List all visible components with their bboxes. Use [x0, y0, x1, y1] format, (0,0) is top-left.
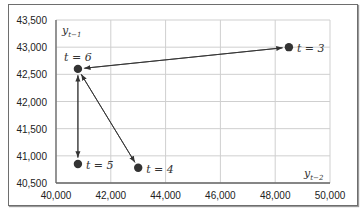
- y-tick-label: 43,000: [16, 42, 47, 53]
- y-tick-labels: 40,50041,00041,50042,00042,50043,00043,5…: [16, 15, 47, 189]
- x-axis-label-subscript: t−2: [310, 174, 324, 182]
- y-tick-label: 42,000: [16, 97, 47, 108]
- data-point: [74, 160, 82, 168]
- x-tick-labels: 40,00042,00044,00046,00048,00050,000: [41, 190, 346, 201]
- x-tick-label: 48,000: [260, 190, 291, 201]
- x-tick-label: 44,000: [150, 190, 181, 201]
- x-tick-label: 42,000: [96, 190, 127, 201]
- data-label: t = 4: [146, 163, 174, 176]
- data-point: [74, 65, 82, 73]
- data-label: t = 5: [86, 159, 114, 172]
- arrows: [78, 48, 283, 163]
- scatter-chart: 40,00042,00044,00046,00048,00050,000 40,…: [0, 0, 362, 213]
- y-tick-label: 43,500: [16, 15, 47, 26]
- y-tick-label: 40,500: [16, 178, 47, 189]
- y-axis-label-subscript: t−1: [68, 31, 81, 39]
- x-tick-label: 50,000: [315, 190, 346, 201]
- data-label: t = 3: [297, 42, 325, 55]
- x-axis-label: yt−2: [303, 167, 324, 182]
- arrow: [81, 74, 135, 162]
- data-point: [285, 43, 293, 51]
- data-point: [134, 164, 142, 172]
- y-tick-label: 41,500: [16, 124, 47, 135]
- data-label: t = 6: [64, 51, 92, 64]
- arrow: [84, 48, 282, 68]
- y-tick-label: 42,500: [16, 69, 47, 80]
- x-tick-label: 46,000: [205, 190, 236, 201]
- x-tick-label: 40,000: [41, 190, 72, 201]
- y-tick-label: 41,000: [16, 151, 47, 162]
- y-axis-label: yt−1: [61, 24, 81, 39]
